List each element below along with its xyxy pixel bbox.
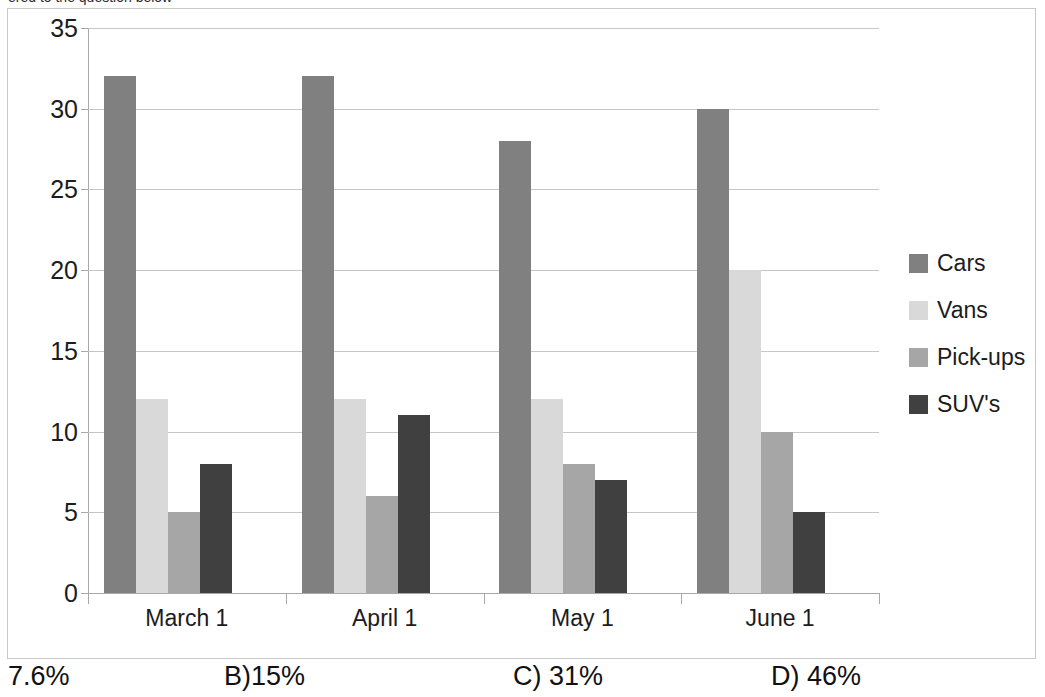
value-axis-tick-20 bbox=[81, 270, 88, 271]
legend-label-cars: Cars bbox=[937, 252, 986, 275]
answer-option-3[interactable]: C) 31% bbox=[513, 663, 603, 690]
value-axis-tick-10 bbox=[81, 432, 88, 433]
bar-pick-ups-may-1 bbox=[563, 464, 595, 593]
value-axis-label-15: 15 bbox=[50, 339, 78, 364]
bar-suv-s-may-1 bbox=[595, 480, 627, 593]
legend-swatch-icon-suv-s bbox=[909, 395, 928, 414]
value-axis-label-35: 35 bbox=[50, 16, 78, 41]
gridline-30 bbox=[88, 109, 879, 110]
category-axis: March 1April 1May 1June 1 bbox=[88, 593, 879, 643]
answer-option-4[interactable]: D) 46% bbox=[771, 663, 861, 690]
legend-label-vans: Vans bbox=[937, 299, 988, 322]
value-axis-tick-25 bbox=[81, 189, 88, 190]
answer-option-1[interactable]: 7.6% bbox=[8, 663, 70, 690]
bar-vans-march-1 bbox=[136, 399, 168, 593]
answer-option-2[interactable]: B)15% bbox=[224, 663, 305, 690]
clipped-title-text: ered to the question below bbox=[8, 0, 172, 5]
value-axis-tick-5 bbox=[81, 512, 88, 513]
category-label-march-1: March 1 bbox=[88, 607, 286, 630]
bar-suv-s-june-1 bbox=[793, 512, 825, 593]
bar-suv-s-march-1 bbox=[200, 464, 232, 593]
category-axis-tick-2 bbox=[484, 593, 485, 604]
bar-vans-may-1 bbox=[531, 399, 563, 593]
value-axis-tick-15 bbox=[81, 351, 88, 352]
value-axis-label-10: 10 bbox=[50, 420, 78, 445]
bar-cars-march-1 bbox=[104, 76, 136, 593]
bar-cars-april-1 bbox=[302, 76, 334, 593]
value-axis-label-5: 5 bbox=[64, 500, 78, 525]
category-label-june-1: June 1 bbox=[681, 607, 879, 630]
value-axis-label-20: 20 bbox=[50, 258, 78, 283]
bar-vans-june-1 bbox=[729, 270, 761, 593]
value-axis-tick-0 bbox=[81, 593, 88, 594]
category-axis-tick-0 bbox=[88, 593, 89, 604]
bar-cars-may-1 bbox=[499, 141, 531, 593]
chart-legend: CarsVansPick-upsSUV's bbox=[909, 240, 1025, 428]
value-axis-label-25: 25 bbox=[50, 177, 78, 202]
legend-swatch-icon-vans bbox=[909, 301, 928, 320]
value-axis-tick-30 bbox=[81, 109, 88, 110]
category-axis-tick-3 bbox=[681, 593, 682, 604]
category-axis-tick-4 bbox=[879, 593, 880, 604]
gridline-35 bbox=[88, 28, 879, 29]
bar-pick-ups-april-1 bbox=[366, 496, 398, 593]
legend-swatch-icon-pick-ups bbox=[909, 348, 928, 367]
legend-item-suv-s[interactable]: SUV's bbox=[909, 381, 1025, 428]
value-axis-label-0: 0 bbox=[64, 581, 78, 606]
bar-suv-s-april-1 bbox=[398, 415, 430, 593]
answer-options-row: 7.6%B)15%C) 31%D) 46% bbox=[0, 659, 1045, 697]
category-label-may-1: May 1 bbox=[484, 607, 682, 630]
legend-label-suv-s: SUV's bbox=[937, 393, 1000, 416]
plot-area bbox=[88, 28, 879, 593]
category-axis-tick-1 bbox=[286, 593, 287, 604]
legend-item-vans[interactable]: Vans bbox=[909, 287, 1025, 334]
bar-pick-ups-march-1 bbox=[168, 512, 200, 593]
legend-swatch-icon-cars bbox=[909, 254, 928, 273]
bar-pick-ups-june-1 bbox=[761, 432, 793, 593]
legend-item-pick-ups[interactable]: Pick-ups bbox=[909, 334, 1025, 381]
clipped-title-strip: ered to the question below bbox=[0, 0, 1045, 6]
legend-item-cars[interactable]: Cars bbox=[909, 240, 1025, 287]
bar-cars-june-1 bbox=[697, 109, 729, 593]
gridline-25 bbox=[88, 189, 879, 190]
legend-label-pick-ups: Pick-ups bbox=[937, 346, 1025, 369]
bar-vans-april-1 bbox=[334, 399, 366, 593]
category-label-april-1: April 1 bbox=[286, 607, 484, 630]
value-axis-label-30: 30 bbox=[50, 97, 78, 122]
value-axis-tick-35 bbox=[81, 28, 88, 29]
